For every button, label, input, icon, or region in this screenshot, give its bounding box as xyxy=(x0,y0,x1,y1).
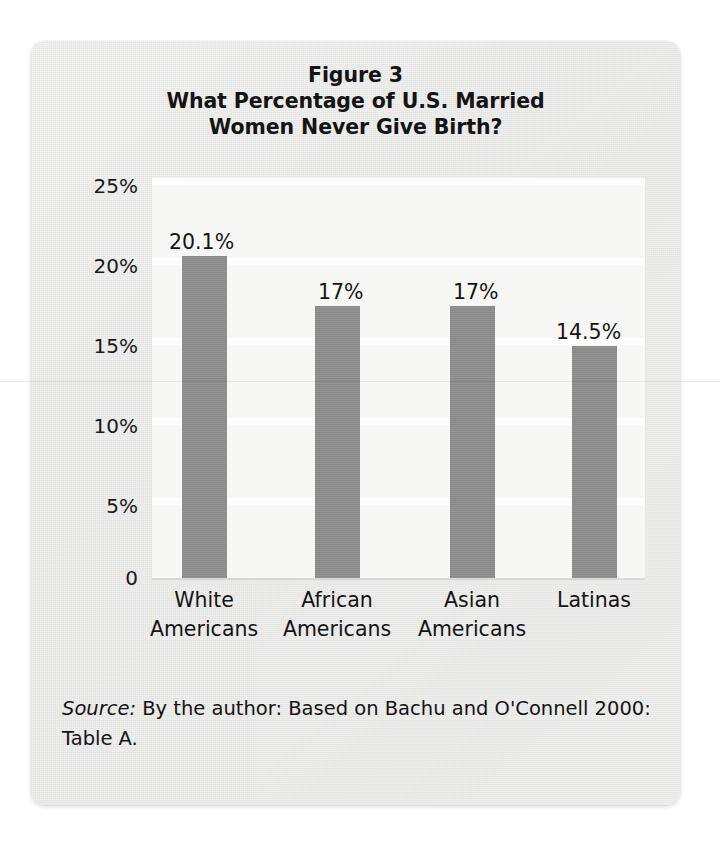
y-tick-label-25: 25% xyxy=(66,176,138,196)
bar-african-americans[interactable] xyxy=(315,306,360,578)
x-tick-label-latinas: Latinas xyxy=(509,586,679,615)
title-line-1: Figure 3 xyxy=(31,62,680,88)
bar-white-americans[interactable] xyxy=(182,256,227,578)
y-tick-label-10: 10% xyxy=(66,416,138,436)
gridline-25 xyxy=(152,178,645,185)
value-label-latinas: 14.5% xyxy=(556,322,621,342)
y-tick-label-5: 5% xyxy=(66,496,138,516)
bar-asian-americans[interactable] xyxy=(450,306,495,578)
value-label-african-americans: 17% xyxy=(318,282,364,302)
page-title: Figure 3 What Percentage of U.S. Married… xyxy=(31,62,680,140)
bar-latinas[interactable] xyxy=(572,346,617,578)
cat-line-1: Latinas xyxy=(509,586,679,615)
source-note: Source: By the author: Based on Bachu an… xyxy=(62,694,662,754)
value-label-white-americans: 20.1% xyxy=(169,232,234,252)
title-line-2: What Percentage of U.S. Married xyxy=(31,88,680,114)
value-label-asian-americans: 17% xyxy=(453,282,499,302)
source-lead: Source: xyxy=(62,697,136,720)
title-line-3: Women Never Give Birth? xyxy=(31,114,680,140)
source-text: By the author: Based on Bachu and O'Conn… xyxy=(62,697,651,750)
axis-baseline xyxy=(152,578,645,580)
y-tick-label-0: 0 xyxy=(66,568,138,588)
cat-line-2: Americans xyxy=(387,615,557,644)
y-tick-label-15: 15% xyxy=(66,336,138,356)
y-tick-label-20: 20% xyxy=(66,256,138,276)
